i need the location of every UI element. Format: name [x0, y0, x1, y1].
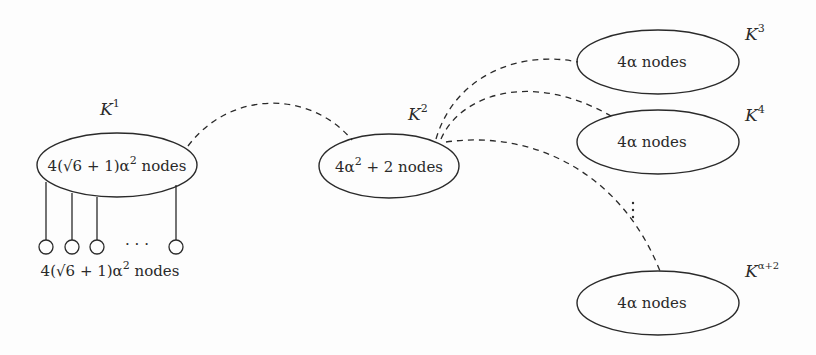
ellipsis-dot	[632, 209, 634, 211]
leaf-node	[65, 240, 79, 254]
cluster-kalpha2: 4α nodes Kα+2	[577, 260, 779, 335]
vertical-ellipsis	[632, 202, 634, 218]
edge-k2-k4	[441, 91, 611, 139]
cluster-kalpha2-text: 4α nodes	[617, 294, 686, 312]
ellipsis-dot	[632, 202, 634, 204]
cluster-k3: 4α nodes K3	[577, 22, 765, 94]
cluster-kalpha2-label: Kα+2	[744, 260, 779, 281]
edge-k2-kalpha2	[446, 140, 660, 271]
cluster-k1-label: K1	[99, 97, 120, 119]
cluster-k4-label: K4	[744, 103, 765, 125]
cluster-k2-label: K2	[407, 102, 428, 124]
cluster-k1-text: 4(√6 + 1)α2 nodes	[48, 154, 187, 175]
cluster-k2: 4α2 + 2 nodes K2	[319, 102, 459, 198]
leaf-node	[169, 240, 183, 254]
leaf-node	[90, 240, 104, 254]
cluster-k4: 4α nodes K4	[577, 103, 765, 174]
leaf-node	[39, 240, 53, 254]
k1-leaf-nodes	[39, 182, 183, 254]
ellipsis-dot	[632, 216, 634, 218]
cluster-k3-text: 4α nodes	[617, 53, 686, 71]
edge-k1-k2	[188, 103, 352, 146]
cluster-graph-diagram: 4(√6 + 1)α2 nodes K1 · · · 4(√6 + 1)α2 n…	[0, 0, 816, 355]
edge-k2-k3	[436, 59, 578, 139]
cluster-k3-label: K3	[744, 22, 765, 44]
leaf-ellipsis: · · ·	[125, 235, 149, 253]
cluster-k1: 4(√6 + 1)α2 nodes K1	[37, 97, 197, 197]
cluster-k4-text: 4α nodes	[617, 133, 686, 151]
leaf-count-label: 4(√6 + 1)α2 nodes	[41, 259, 180, 280]
diagram-canvas: 4(√6 + 1)α2 nodes K1 · · · 4(√6 + 1)α2 n…	[0, 0, 816, 355]
cluster-k2-text: 4α2 + 2 nodes	[335, 155, 443, 176]
